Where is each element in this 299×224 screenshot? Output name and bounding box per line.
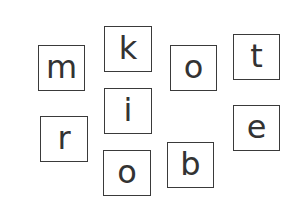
letter-tile-t: t [233, 34, 280, 80]
tile-letter: m [46, 51, 77, 83]
letter-tile-k: k [104, 26, 152, 72]
letter-tile-m: m [38, 45, 85, 91]
letter-tile-o-bottom: o [103, 150, 151, 196]
tile-letter: o [117, 156, 137, 188]
tile-letter: t [250, 40, 263, 72]
letter-tile-o-top: o [170, 45, 217, 91]
tile-letter: k [119, 32, 138, 64]
letter-tile-e: e [233, 105, 280, 151]
letter-tile-r: r [40, 116, 88, 162]
letter-tiles-canvas: m k o t i r e o b [0, 0, 299, 224]
letter-tile-b: b [167, 142, 214, 188]
letter-tile-i: i [104, 88, 152, 134]
tile-letter: b [180, 148, 200, 180]
tile-letter: e [247, 111, 267, 143]
tile-letter: o [184, 51, 204, 83]
tile-letter: r [57, 122, 70, 154]
tile-letter: i [124, 94, 133, 126]
